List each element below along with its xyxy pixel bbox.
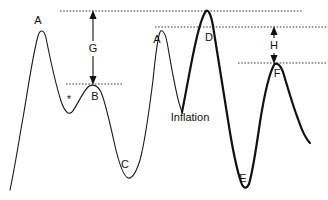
wave-diagram-svg: G H A B C A D E F * Inflation bbox=[0, 0, 328, 200]
measure-g-arrow: G bbox=[86, 10, 101, 85]
measure-h-label: H bbox=[270, 39, 278, 51]
measure-h-arrow: H bbox=[267, 26, 282, 64]
star-marker-label: * bbox=[67, 94, 71, 105]
trough-e-label: E bbox=[239, 172, 246, 184]
point-labels: A B C A D E F * Inflation bbox=[34, 14, 280, 184]
peak-f-label: F bbox=[274, 67, 281, 79]
trough-c-label: C bbox=[121, 158, 129, 170]
wave-thick-segment bbox=[182, 11, 310, 188]
peak-a-second-label: A bbox=[153, 33, 161, 45]
peak-d-label: D bbox=[205, 31, 213, 43]
trough-b-label: B bbox=[91, 90, 98, 102]
wave-diagram-figure: G H A B C A D E F * Inflation bbox=[0, 0, 328, 200]
measure-g-label: G bbox=[89, 42, 98, 54]
inflation-label: Inflation bbox=[171, 111, 210, 123]
peak-a-first-label: A bbox=[34, 14, 42, 26]
